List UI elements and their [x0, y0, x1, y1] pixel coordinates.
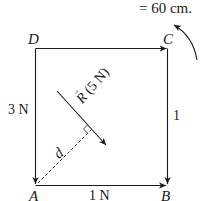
length-caption: = 60 cm. [139, 1, 192, 16]
vertex-label-a: A [29, 189, 38, 201]
force-label-right: 1 [173, 109, 180, 123]
force-label-bottom: 1 N [89, 189, 110, 201]
right-angle-mark [84, 125, 89, 134]
vertex-label-c: C [163, 32, 173, 47]
force-square-diagram: = 60 cm. D C A B 3 N 1 1 N R→ (5 N) d [0, 0, 204, 201]
rotation-arrow-icon [174, 25, 197, 60]
vertex-label-b: B [161, 189, 170, 201]
vertex-label-d: D [28, 32, 39, 47]
force-label-left: 3 N [8, 103, 29, 117]
